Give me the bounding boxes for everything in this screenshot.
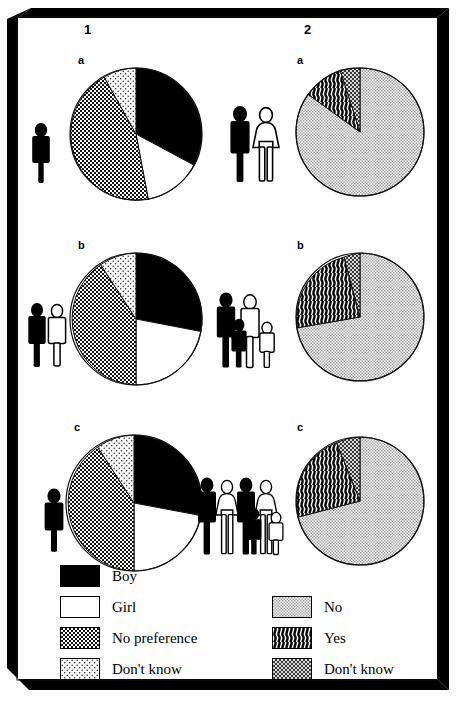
legend-label-dont-know-2: Don't know — [324, 662, 394, 677]
legend-left: Boy Girl No preference Don't know — [60, 565, 197, 689]
chart-1a — [62, 60, 210, 208]
legend-label-boy: Boy — [112, 569, 137, 584]
chart-2c — [288, 429, 432, 573]
legend-swatch-no-preference — [60, 627, 100, 649]
legend-right: No Yes Don't know — [272, 596, 394, 689]
legend-item-no: No — [272, 596, 394, 618]
chart-1b — [62, 245, 210, 393]
legend-label-dont-know: Don't know — [112, 662, 182, 677]
legend-item-no-preference: No preference — [60, 627, 197, 649]
legend-swatch-no — [272, 596, 312, 618]
legend-label-no: No — [324, 600, 342, 615]
column-header-2: 2 — [304, 22, 311, 37]
legend-item-boy: Boy — [60, 565, 197, 587]
family-of-four-icon — [214, 291, 286, 369]
legend-item-dont-know-2: Don't know — [272, 658, 394, 680]
column-header-1: 1 — [84, 22, 91, 37]
chart-2b — [288, 245, 432, 389]
chart-1c — [58, 427, 210, 579]
legend-item-girl: Girl — [60, 596, 197, 618]
man-and-woman-icon — [228, 105, 284, 183]
legend-swatch-boy — [60, 565, 100, 587]
legend-swatch-dont-know-2 — [272, 658, 312, 680]
family-of-six-icon — [196, 475, 292, 557]
legend-swatch-dont-know — [60, 658, 100, 680]
legend-item-dont-know: Don't know — [60, 658, 197, 680]
legend-label-no-preference: No preference — [112, 631, 197, 646]
legend-label-girl: Girl — [112, 600, 136, 615]
legend-item-yes: Yes — [272, 627, 394, 649]
figure-panel: 1 2 — [0, 0, 456, 704]
plot-area: 1 2 — [16, 17, 436, 672]
legend-label-yes: Yes — [324, 631, 346, 646]
chart-2a — [288, 60, 432, 204]
legend-swatch-yes — [272, 627, 312, 649]
single-man-icon — [28, 122, 54, 184]
legend-swatch-girl — [60, 596, 100, 618]
